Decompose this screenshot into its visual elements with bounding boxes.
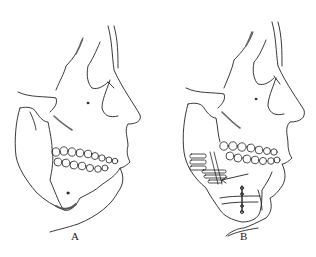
skull-profile-illustration-b — [158, 0, 316, 257]
figure-panel-a: A — [0, 0, 158, 257]
panel-label-b: B — [240, 230, 247, 242]
panel-label-a: A — [71, 230, 79, 242]
skull-profile-illustration-a — [0, 0, 158, 257]
figure-panel-b: B — [158, 0, 316, 257]
